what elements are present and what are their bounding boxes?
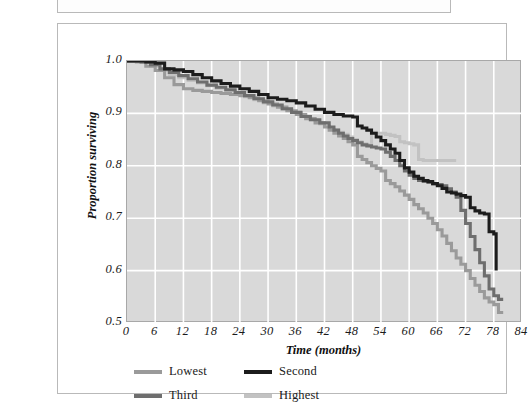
x-tick-label: 72	[450, 324, 480, 339]
legend-swatch-icon	[134, 370, 162, 374]
x-tick-label: 6	[139, 324, 169, 339]
x-tick-label: 78	[478, 324, 508, 339]
x-tick-label: 84	[506, 324, 532, 339]
survival-curves-svg	[127, 61, 522, 323]
caption-box	[57, 0, 451, 13]
x-axis-title: Time (months)	[126, 343, 521, 358]
legend-item-lowest[interactable]: Lowest	[134, 364, 244, 379]
legend-label: Third	[169, 388, 198, 403]
plot-area	[126, 60, 521, 322]
legend-item-third[interactable]: Third	[134, 388, 244, 403]
legend-swatch-icon	[134, 394, 162, 398]
y-tick-label: 1.0	[88, 52, 122, 67]
x-tick-label: 0	[111, 324, 141, 339]
legend-item-second[interactable]: Second	[244, 364, 354, 379]
x-axis-tick-labels: 0612182430364248546066727884	[126, 324, 526, 342]
legend-item-highest[interactable]: Highest	[244, 388, 354, 403]
chart-legend: LowestSecondThirdHighest	[134, 364, 374, 403]
chart-card: 0.50.60.70.80.91.0 061218243036424854606…	[57, 23, 507, 394]
legend-swatch-icon	[244, 370, 272, 374]
x-tick-label: 18	[196, 324, 226, 339]
legend-label: Highest	[279, 388, 319, 403]
x-tick-label: 24	[224, 324, 254, 339]
x-tick-label: 54	[365, 324, 395, 339]
x-tick-label: 30	[252, 324, 282, 339]
x-tick-label: 48	[337, 324, 367, 339]
legend-label: Lowest	[169, 364, 207, 379]
x-tick-label: 66	[421, 324, 451, 339]
x-tick-label: 60	[393, 324, 423, 339]
y-axis-title: Proportion surviving	[85, 86, 100, 246]
legend-swatch-icon	[244, 394, 272, 398]
x-tick-label: 12	[167, 324, 197, 339]
legend-label: Second	[279, 364, 317, 379]
x-tick-label: 42	[309, 324, 339, 339]
x-tick-label: 36	[280, 324, 310, 339]
y-tick-label: 0.6	[88, 262, 122, 277]
